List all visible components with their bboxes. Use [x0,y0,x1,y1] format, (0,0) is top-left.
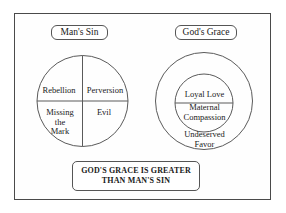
statement-line-2: THAN MAN'S SIN [102,176,170,187]
statement-box: GOD'S GRACE IS GREATER THAN MAN'S SIN [72,161,200,191]
grace-label-maternal-compassion: Maternal Compassion [172,103,237,122]
quadrant-label-perversion: Perversion [82,86,128,96]
quadrant-label-missing-the-mark: Missing the Mark [40,108,80,137]
grace-label-loyal-love: Loyal Love [176,90,233,100]
gods-grace-caption: God's Grace [175,25,237,40]
statement-line-1: GOD'S GRACE IS GREATER [81,166,191,177]
quadrant-label-evil: Evil [84,108,124,118]
grace-sin-diagram: Man's Sin God's Grace Rebellion Perversi… [0,0,286,213]
grace-label-undeserved-favor: Undeserved Favor [174,130,235,149]
mans-sin-caption: Man's Sin [51,25,108,40]
mans-sin-caption-text: Man's Sin [61,28,99,38]
quadrant-label-rebellion: Rebellion [38,86,80,96]
gods-grace-caption-text: God's Grace [183,28,230,38]
